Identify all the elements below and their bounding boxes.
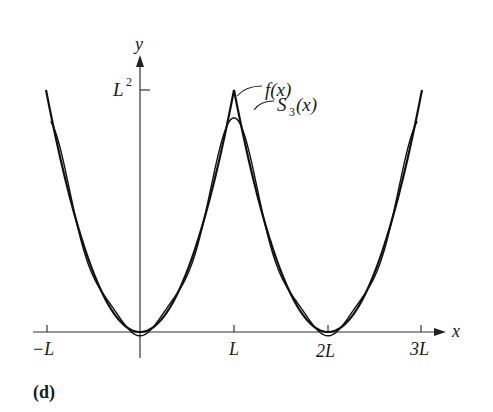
svg-text:3: 3: [289, 105, 295, 119]
panel-label: (d): [33, 382, 55, 403]
y-axis: [136, 55, 144, 358]
x-tick-label-L: L: [228, 339, 239, 359]
y-tick-label: L: [112, 79, 124, 100]
x-tick-label-2L: 2L: [316, 341, 335, 361]
x-tick-label-neg-L: −L: [32, 339, 54, 359]
x-tick-label-3L: 3L: [409, 339, 429, 359]
x-axis-arrow-icon: [434, 328, 446, 336]
y-axis-arrow-icon: [136, 55, 144, 67]
y-axis-label: y: [133, 34, 143, 54]
x-ticks: [47, 325, 421, 332]
y-tick-label-exponent: 2: [126, 75, 132, 89]
s3-annotation: S 3 (x): [277, 94, 317, 119]
svg-text:(x): (x): [296, 94, 317, 116]
f-curve: [46, 90, 422, 332]
svg-text:S: S: [277, 94, 287, 115]
s3-curve: [51, 118, 418, 336]
x-axis: [33, 328, 446, 336]
s3-leader-line: [254, 101, 274, 110]
f-leader-line: [237, 86, 262, 96]
fourier-series-figure: y x L 2 −L L 2L 3L f(x) S 3 (x) (d): [0, 0, 493, 412]
x-axis-label: x: [451, 321, 460, 341]
